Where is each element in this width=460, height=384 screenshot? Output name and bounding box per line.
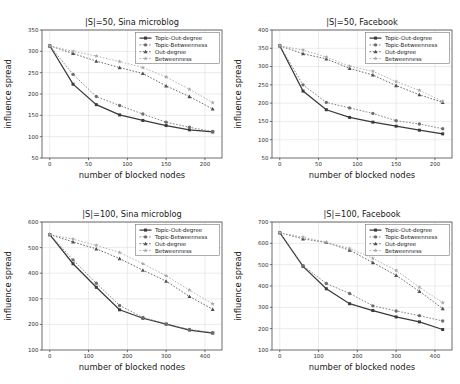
circle-marker [374,43,377,46]
circle-marker [118,104,121,107]
x-tick-label: 0 [48,161,52,167]
circle-marker [441,127,444,130]
panel-top-left: |S|=50, Sina microblog501001502002503003… [0,0,230,192]
circle-marker [394,309,397,312]
circle-marker [95,281,98,284]
y-tick-label: 500 [258,262,269,268]
square-marker [441,328,444,331]
chart-svg: |S|=100, Sina microblog10020030040050060… [0,192,230,384]
panel-title: |S|=100, Facebook [324,209,401,219]
circle-marker [301,264,304,267]
square-marker [348,302,351,305]
circle-marker [141,112,144,115]
y-tick-label: 700 [258,219,269,225]
y-tick-label: 300 [28,48,39,54]
square-marker [118,308,121,311]
legend: Topic-Out-degreeTopic-BetweennessOut-deg… [136,225,220,256]
square-marker [144,37,147,40]
y-tick-label: 200 [28,91,39,97]
legend-label: Betweenness [155,56,192,62]
circle-marker [141,316,144,319]
x-tick-label: 50 [315,161,322,167]
square-marker [325,287,328,290]
y-tick-label: 400 [28,270,39,276]
circle-marker [348,292,351,295]
x-axis-label: number of blocked nodes [79,170,185,180]
legend: Topic-Out-degreeTopic-BetweennessOut-deg… [366,33,450,64]
x-tick-label: 300 [161,353,172,359]
y-axis-label: influence spread [3,251,13,321]
square-marker [144,229,147,232]
y-tick-label: 150 [28,112,39,118]
x-tick-label: 0 [278,161,282,167]
square-marker [374,37,377,40]
x-tick-label: 100 [83,353,94,359]
square-marker [395,315,398,318]
square-marker [118,113,121,116]
square-marker [395,125,398,128]
circle-marker [301,83,304,86]
y-tick-label: 300 [258,63,269,69]
y-tick-label: 100 [28,134,39,140]
panel-bottom-left: |S|=100, Sina microblog10020030040050060… [0,192,230,384]
y-tick-label: 500 [28,245,39,251]
y-tick-label: 400 [258,283,269,289]
square-marker [141,119,144,122]
y-axis-label: influence spread [233,59,243,129]
panel-title: |S|=100, Sina microblog [82,209,181,219]
y-tick-label: 300 [258,304,269,310]
legend: Topic-Out-degreeTopic-BetweennessOut-deg… [136,33,220,64]
y-tick-label: 250 [28,70,39,76]
circle-marker [441,319,444,322]
x-tick-label: 0 [278,353,282,359]
x-tick-label: 100 [352,161,363,167]
x-axis-label: number of blocked nodes [309,170,415,180]
square-marker [302,90,305,93]
legend-label: Betweenness [155,248,192,254]
circle-marker [348,106,351,109]
circle-marker [118,304,121,307]
square-marker [72,262,75,265]
x-tick-label: 150 [161,161,172,167]
x-axis-label: number of blocked nodes [79,362,185,372]
x-tick-label: 0 [48,353,52,359]
y-tick-label: 150 [258,118,269,124]
x-tick-label: 100 [313,353,324,359]
panel-top-right: |S|=50, Facebook501001502002503003504000… [230,0,460,192]
x-tick-label: 400 [430,353,441,359]
square-marker [95,286,98,289]
circle-marker [144,43,147,46]
circle-marker [211,130,214,133]
square-marker [165,124,168,127]
x-tick-label: 100 [122,161,133,167]
square-marker [371,121,374,124]
circle-marker [374,235,377,238]
legend: Topic-Out-degreeTopic-BetweennessOut-deg… [366,225,450,256]
square-marker [374,229,377,232]
circle-marker [418,314,421,317]
x-tick-label: 150 [391,161,402,167]
x-tick-label: 50 [85,161,92,167]
x-tick-label: 200 [122,353,133,359]
x-tick-label: 200 [200,161,211,167]
x-tick-label: 200 [352,353,363,359]
circle-marker [325,101,328,104]
circle-marker [325,282,328,285]
square-marker [95,103,98,106]
chart-svg: |S|=50, Sina microblog501001502002503003… [0,0,230,192]
y-tick-label: 600 [28,219,39,225]
y-tick-label: 100 [28,347,39,353]
x-axis-label: number of blocked nodes [309,362,415,372]
square-marker [371,309,374,312]
panel-title: |S|=50, Facebook [326,17,398,27]
circle-marker [188,126,191,129]
y-tick-label: 400 [258,27,269,33]
y-axis-label: influence spread [3,59,13,129]
circle-marker [371,112,374,115]
y-tick-label: 200 [28,321,39,327]
square-marker [418,129,421,132]
circle-marker [144,235,147,238]
y-tick-label: 250 [258,82,269,88]
square-marker [418,320,421,323]
y-tick-label: 350 [28,27,39,33]
